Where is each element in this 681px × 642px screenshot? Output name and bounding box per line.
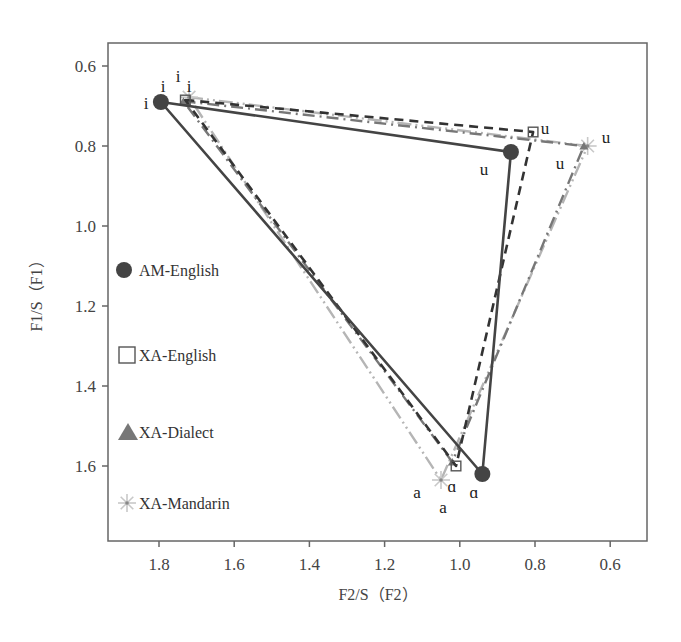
- vowel-label: i: [161, 77, 166, 96]
- x-axis-title: F2/S（F2）: [338, 586, 417, 603]
- vowel-label: i: [187, 77, 192, 96]
- legend-label: XA-English: [139, 347, 216, 365]
- circle-marker-icon: [153, 94, 169, 110]
- circle-marker-icon: [503, 144, 519, 160]
- x-tick-label: 1.8: [148, 555, 169, 574]
- vowel-label: i: [144, 94, 149, 113]
- y-tick-label: 1.2: [75, 297, 96, 316]
- y-tick-label: 0.6: [75, 57, 96, 76]
- plot-frame: [108, 43, 647, 541]
- vowel-label: a: [439, 498, 447, 517]
- y-tick-label: 1.6: [75, 457, 96, 476]
- circle-marker-icon: [116, 262, 132, 278]
- y-tick-label: 0.8: [75, 137, 96, 156]
- x-tick-label: 1.2: [374, 555, 395, 574]
- vowel-label: i: [176, 67, 181, 86]
- y-tick-label: 1.0: [75, 217, 96, 236]
- legend-label: XA-Dialect: [139, 424, 214, 441]
- vowel-formant-chart: 0.60.81.01.21.41.6 1.81.61.41.21.00.80.6…: [0, 0, 681, 642]
- x-tick-label: 1.6: [224, 555, 245, 574]
- star-marker-icon: [118, 494, 136, 512]
- y-axis: 0.60.81.01.21.41.6: [75, 57, 108, 476]
- vowel-label: u: [541, 119, 550, 138]
- legend-label: XA-Mandarin: [139, 495, 230, 512]
- vowel-label: a: [413, 483, 421, 502]
- legend-label: AM-English: [139, 262, 219, 280]
- vowel-label: ɑ: [448, 477, 457, 496]
- y-axis-title: F1/S（F1）: [28, 252, 45, 331]
- x-tick-label: 0.6: [600, 555, 621, 574]
- vowel-label: u: [480, 160, 489, 179]
- x-tick-label: 1.0: [449, 555, 470, 574]
- x-axis: 1.81.61.41.21.00.80.6: [148, 541, 620, 574]
- vowel-label: u: [556, 154, 565, 173]
- y-tick-label: 1.4: [75, 377, 97, 396]
- circle-marker-icon: [474, 466, 490, 482]
- x-tick-label: 0.8: [524, 555, 545, 574]
- x-tick-label: 1.4: [299, 555, 321, 574]
- vowel-label: u: [602, 128, 611, 147]
- vowel-label: ɑ: [470, 483, 479, 502]
